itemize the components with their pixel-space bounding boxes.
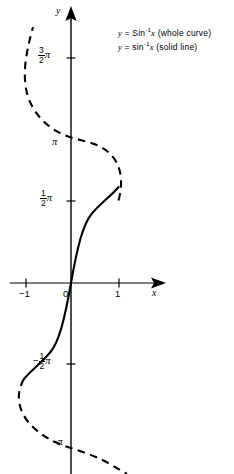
fraction-denominator: 2: [39, 362, 46, 371]
pi-symbol: π: [45, 49, 50, 60]
legend-equals: =: [125, 28, 130, 38]
legend-entry-whole-curve: y = Sin-1x (whole curve): [118, 27, 211, 41]
legend: y = Sin-1x (whole curve) y = sin-1x (sol…: [118, 27, 211, 54]
y-tick-label-negative-pi-over-2: −12π: [33, 352, 51, 371]
legend-argument: x: [151, 28, 155, 38]
x-axis-label: x: [152, 287, 156, 298]
legend-entry-solid-line: y = sin-1x (solid line): [118, 41, 211, 55]
y-tick-label-3pi-over-2: 32π: [38, 46, 50, 65]
x-tick-label-negative-1: −1: [19, 288, 30, 299]
legend-argument: x: [150, 42, 154, 52]
pi-symbol: π: [52, 136, 57, 147]
y-axis-label: y: [56, 5, 60, 16]
legend-function: Sin: [132, 28, 145, 38]
pi-symbol: π: [58, 436, 63, 447]
fraction-numerator: 3: [38, 46, 45, 56]
fraction-numerator: 1: [40, 189, 47, 199]
y-tick-label-negative-pi: −π: [52, 436, 63, 447]
fraction-denominator: 2: [40, 199, 47, 208]
legend-function: sin: [132, 42, 143, 52]
legend-note: (solid line): [156, 42, 197, 52]
y-tick-label-pi-over-2: 12π: [40, 189, 52, 208]
inverse-sine-graph: [0, 0, 234, 474]
x-tick-label-1: 1: [115, 288, 120, 299]
curve-lower-dashed-branch: [19, 379, 127, 474]
y-tick-label-pi: π: [52, 136, 57, 147]
origin-label: 0: [63, 288, 68, 299]
fraction-denominator: 2: [38, 56, 45, 65]
fraction-numerator: 1: [39, 352, 46, 362]
pi-symbol: π: [47, 192, 52, 203]
legend-lhs: y: [118, 42, 122, 52]
legend-equals: =: [125, 42, 130, 52]
legend-note: (whole curve): [158, 28, 212, 38]
pi-symbol: π: [45, 355, 50, 366]
legend-lhs: y: [118, 28, 122, 38]
